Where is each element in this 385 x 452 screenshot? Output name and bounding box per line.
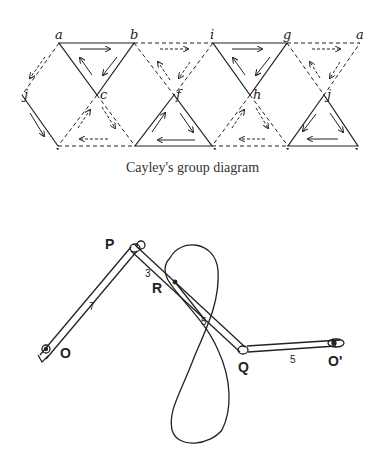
point-label-o: O (60, 345, 71, 361)
cayley-group-diagram: a b i g a j c f h j k e d l k (0, 0, 385, 150)
vertex-label-i: i (210, 27, 214, 42)
point-label-q: Q (238, 359, 249, 375)
vertex-label-k: k (55, 146, 63, 150)
point-label-r: R (152, 280, 162, 296)
vertex-label-h: h (253, 87, 261, 102)
point-label-o-prime: O' (328, 353, 342, 369)
vertex-label-l: l (285, 146, 289, 150)
vertex-label-f: f (175, 87, 183, 102)
vertex-label-d: d (208, 146, 216, 150)
point-label-p: P (105, 236, 114, 252)
vertex-label-k2: k (354, 146, 362, 150)
vertex-label-e: e (131, 146, 139, 150)
vertex-label-j2: j (324, 87, 331, 102)
vertex-label-a: a (55, 27, 63, 42)
rod-label-qo-prime: 5 (290, 354, 296, 365)
rod-label-pr: 3 (145, 268, 151, 279)
rod-label-op: 7 (89, 301, 95, 312)
vertex-label-a2: a (356, 27, 364, 42)
vertex-label-b: b (130, 27, 138, 42)
rod-label-rq: 5 (201, 316, 207, 327)
figure-caption: Cayley's group diagram (0, 160, 385, 176)
vertex-label-g: g (283, 27, 291, 42)
vertex-label-c: c (100, 87, 108, 102)
linkage-diagram: P R Q O O' 7 3 5 5 (0, 215, 385, 452)
